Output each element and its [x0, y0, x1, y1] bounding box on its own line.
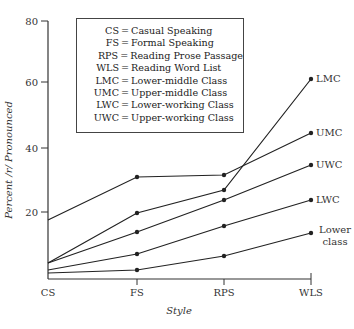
legend-item-rps: RPS=Reading Prose Passage — [77, 50, 243, 62]
x-tick-cs: CS — [41, 287, 56, 298]
legend-item-umc: UMC=Upper-middle Class — [77, 87, 243, 99]
x-tick-fs: FS — [130, 287, 144, 298]
legend-item-lmc: LMC=Lower-middle Class — [77, 75, 243, 87]
series-lwc — [48, 200, 311, 270]
label-uwc: UWC — [316, 159, 343, 170]
label-umc: UMC — [316, 127, 343, 138]
y-tick-40: 40 — [25, 143, 38, 154]
x-tick-wls: WLS — [299, 287, 323, 298]
label-lmc: LMC — [316, 73, 341, 84]
legend-item-fs: FS=Formal Speaking — [77, 37, 243, 49]
label-lower-class-line1: Lower — [319, 224, 351, 235]
x-axis-label: Style — [166, 305, 192, 316]
series-uwc — [48, 165, 311, 263]
y-tick-60: 60 — [25, 77, 38, 88]
legend-item-uwc: UWC=Upper-working Class — [77, 112, 243, 124]
y-tick-20: 20 — [25, 207, 38, 218]
legend-item-wls: WLS=Reading Word List — [77, 62, 243, 74]
legend-item-cs: CS=Casual Speaking — [77, 25, 243, 37]
legend-item-lwc: LWC=Lower-working Class — [77, 99, 243, 111]
label-lwc: LWC — [316, 194, 340, 205]
legend-box: CS=Casual Speaking FS=Formal Speaking RP… — [76, 18, 244, 133]
label-lower-class-line2: class — [322, 236, 347, 247]
series-umc — [48, 133, 311, 220]
y-tick-80: 80 — [25, 16, 38, 27]
x-tick-rps: RPS — [213, 287, 234, 298]
series-lower-class — [48, 233, 311, 273]
y-axis-label: Percent /r/ Pronounced — [3, 101, 14, 220]
